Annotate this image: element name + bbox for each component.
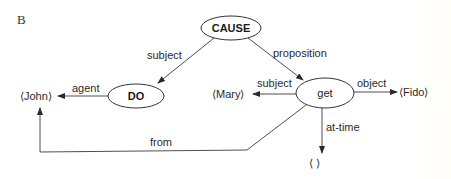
terminal-john: ⟨John⟩ (20, 90, 52, 102)
semantic-network-diagram: B CAUSE DO get ⟨John⟩ ⟨Mary⟩ ⟨Fido⟩ ⟨ ⟩ … (0, 0, 451, 179)
label-get-mary-subject: subject (257, 77, 292, 89)
label-get-time-at-time: at-time (326, 121, 360, 133)
node-cause-label: CAUSE (212, 22, 251, 34)
edge-get-john (40, 105, 306, 152)
terminal-fido: ⟨Fido⟩ (399, 86, 428, 98)
terminal-mary: ⟨Mary⟩ (212, 88, 244, 100)
node-get-label: get (317, 87, 332, 99)
node-get: get (296, 78, 354, 108)
label-get-john-from: from (150, 136, 172, 148)
label-cause-do-subject: subject (147, 49, 182, 61)
edge-cause-get (248, 38, 303, 80)
label-cause-get-proposition: proposition (273, 47, 327, 59)
label-do-john-agent: agent (72, 82, 100, 94)
panel-label: B (17, 12, 26, 27)
terminal-time: ⟨ ⟩ (309, 157, 320, 169)
node-cause: CAUSE (201, 16, 261, 40)
node-do-label: DO (128, 90, 145, 102)
node-do: DO (108, 84, 164, 108)
diagram-canvas: B CAUSE DO get ⟨John⟩ ⟨Mary⟩ ⟨Fido⟩ ⟨ ⟩ … (0, 0, 451, 179)
label-get-fido-object: object (357, 77, 386, 89)
